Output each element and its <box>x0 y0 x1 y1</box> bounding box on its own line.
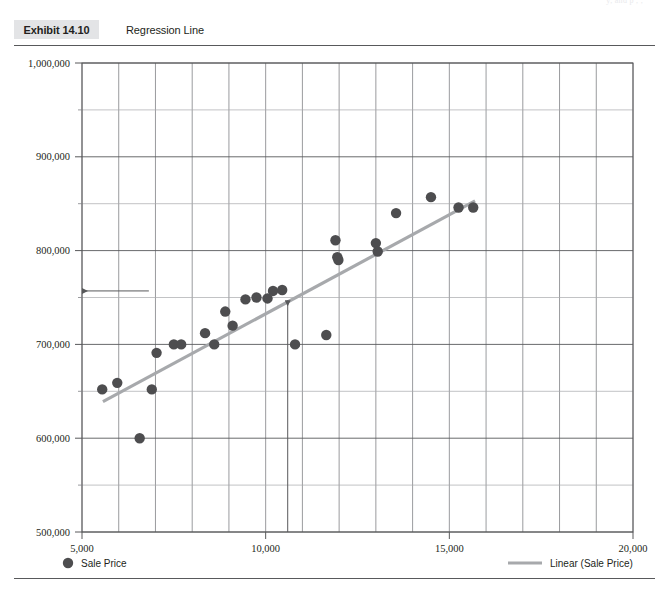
data-point <box>134 433 144 443</box>
legend-label-sale-price: Sale Price <box>81 558 127 569</box>
y-tick-label: 600,000 <box>36 433 70 444</box>
data-point <box>268 286 278 296</box>
data-point <box>468 202 478 212</box>
y-tick-label: 800,000 <box>36 245 70 256</box>
chart-annotations <box>82 291 288 532</box>
x-tick-label: 15,000 <box>435 543 464 554</box>
regression-scatter-chart: 500,000600,000700,000800,000900,0001,000… <box>0 0 669 591</box>
data-point <box>321 330 331 340</box>
y-tick-label: 900,000 <box>36 151 70 162</box>
data-point <box>333 255 343 265</box>
legend-marker-sale-price <box>63 558 73 568</box>
y-axis-labels: 500,000600,000700,000800,000900,0001,000… <box>28 58 70 538</box>
data-point <box>112 378 122 388</box>
x-tick-label: 10,000 <box>251 543 280 554</box>
data-point <box>391 208 401 218</box>
data-point <box>227 320 237 330</box>
x-tick-label: 5,000 <box>70 543 94 554</box>
y-tick-label: 1,000,000 <box>28 58 70 69</box>
data-point <box>373 246 383 256</box>
data-point <box>151 348 161 358</box>
data-point <box>290 339 300 349</box>
axis-ticks <box>75 63 633 539</box>
data-point <box>176 339 186 349</box>
x-axis-labels: 5,00010,00015,00020,000 <box>70 543 647 554</box>
data-point <box>251 292 261 302</box>
data-point <box>240 294 250 304</box>
data-point <box>330 235 340 245</box>
legend-label-linear-sale-price: Linear (Sale Price) <box>550 558 633 569</box>
data-point <box>97 384 107 394</box>
minor-gridlines <box>82 63 633 532</box>
data-point <box>220 306 230 316</box>
data-point <box>209 339 219 349</box>
y-tick-label: 700,000 <box>36 339 70 350</box>
data-point <box>277 285 287 295</box>
data-point <box>147 384 157 394</box>
y-tick-label: 500,000 <box>36 527 70 538</box>
x-tick-label: 20,000 <box>619 543 648 554</box>
data-point <box>453 202 463 212</box>
regression-trendline <box>103 201 475 402</box>
data-point <box>426 192 436 202</box>
data-point <box>200 328 210 338</box>
footer-divider <box>14 578 655 579</box>
chart-legend: Sale PriceLinear (Sale Price) <box>63 558 633 569</box>
